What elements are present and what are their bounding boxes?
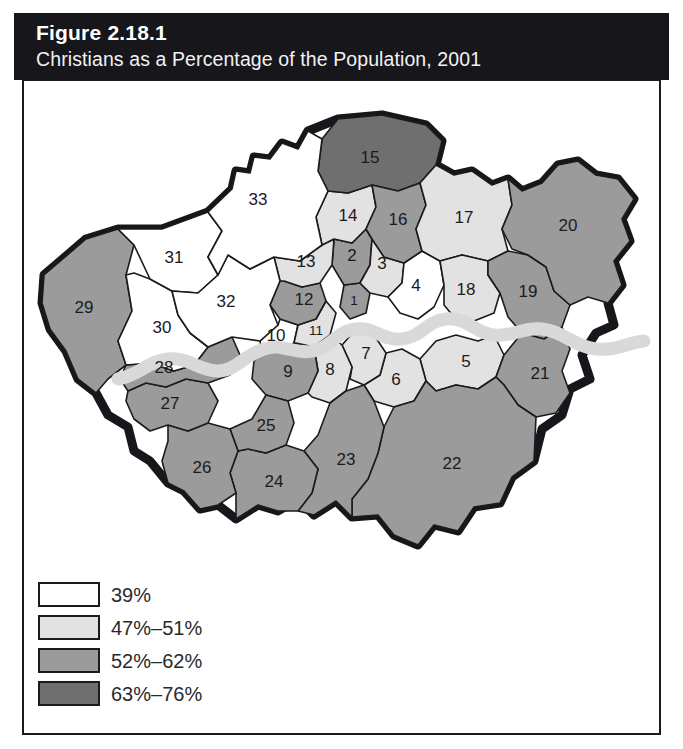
legend-row: 47%–51%	[38, 611, 202, 644]
figure-number: Figure 2.18.1	[36, 19, 669, 46]
legend-row: 52%–62%	[38, 644, 202, 677]
legend-label-3: 63%–76%	[111, 684, 202, 704]
legend-swatch-0	[38, 582, 100, 607]
legend-row: 39%	[38, 578, 202, 611]
legend-swatch-2	[38, 648, 100, 673]
legend-row: 63%–76%	[38, 677, 202, 710]
figure-subtitle: Christians as a Percentage of the Popula…	[36, 46, 669, 73]
legend-swatch-1	[38, 615, 100, 640]
figure-container: Figure 2.18.1 Christians as a Percentage…	[0, 0, 683, 749]
figure-header-bar: Figure 2.18.1 Christians as a Percentage…	[14, 13, 669, 80]
legend-label-0: 39%	[111, 585, 151, 605]
legend-swatch-3	[38, 681, 100, 706]
map-legend: 39% 47%–51% 52%–62% 63%–76%	[38, 578, 202, 710]
legend-label-2: 52%–62%	[111, 651, 202, 671]
legend-label-1: 47%–51%	[111, 618, 202, 638]
